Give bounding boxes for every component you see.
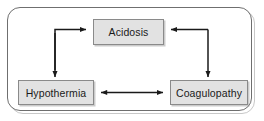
node-hypothermia-label: Hypothermia — [26, 87, 87, 99]
diagram-figure: Acidosis Hypothermia Coagulopathy — [0, 0, 264, 121]
node-acidosis-label: Acidosis — [109, 26, 149, 38]
node-hypothermia: Hypothermia — [18, 80, 94, 105]
node-acidosis: Acidosis — [93, 19, 164, 45]
node-coagulopathy-label: Coagulopathy — [176, 87, 242, 99]
node-coagulopathy: Coagulopathy — [170, 80, 248, 105]
edge-hypothermia-to-acidosis — [55, 30, 86, 71]
